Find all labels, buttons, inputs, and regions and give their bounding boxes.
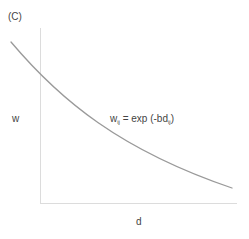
equation-middle: = exp (-bd	[120, 113, 168, 124]
x-axis-label: d	[136, 216, 142, 227]
y-axis-label: w	[12, 113, 19, 124]
equation-tail: )	[171, 113, 174, 124]
equation-annotation: wij = exp (-bdij)	[110, 113, 174, 124]
chart-panel: (C) w d wij = exp (-bdij)	[0, 0, 249, 239]
panel-label: (C)	[8, 11, 22, 22]
